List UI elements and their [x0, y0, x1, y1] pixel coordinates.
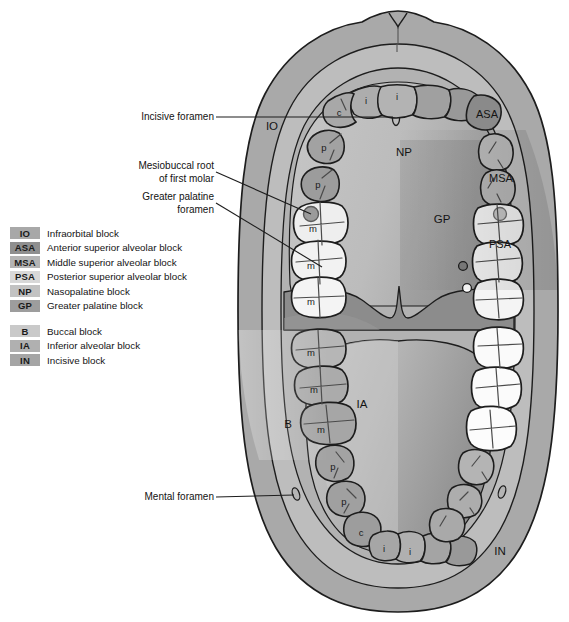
- legend-label-gp: Greater palatine block: [47, 300, 143, 311]
- callout-greater-palatine-line2: foramen: [84, 204, 214, 217]
- legend-group-mandibular: BBuccal blockIAInferior alveolar blockIN…: [10, 324, 200, 368]
- tooth-man-canine-right: [430, 508, 465, 541]
- legend-swatch-psa: PSA: [10, 271, 40, 283]
- region-label-msa: MSA: [489, 172, 514, 184]
- legend-swatch-in: IN: [10, 354, 40, 366]
- callout-mental-foramen: Mental foramen: [104, 491, 214, 504]
- tooth-max-incisor-2: [413, 85, 451, 118]
- callout-mental-foramen-line1: Mental foramen: [104, 491, 214, 504]
- legend-row-gp: GPGreater palatine block: [10, 299, 200, 314]
- tooth-label-man-molar2: m: [310, 384, 318, 395]
- legend-group-divider: [10, 313, 200, 324]
- legend-swatch-gp: GP: [10, 300, 40, 312]
- legend-row-in: INIncisive block: [10, 353, 200, 368]
- tooth-label-max-prem2: p: [315, 179, 320, 190]
- region-label-io: IO: [266, 120, 278, 132]
- tooth-label-man-central: i: [409, 546, 411, 557]
- legend: IOInfraorbital blockASAAnterior superior…: [10, 226, 200, 368]
- tooth-label-max-molar3: m: [307, 296, 315, 307]
- callout-mesiobuccal-root-line2: of first molar: [84, 173, 214, 186]
- legend-label-in: Incisive block: [47, 355, 105, 366]
- tooth-man-premolar2-right: [459, 449, 494, 484]
- callout-incisive-foramen: Incisive foramen: [104, 111, 214, 124]
- tooth-label-man-lateral: i: [383, 543, 385, 554]
- region-label-psa: PSA: [489, 238, 512, 250]
- legend-label-asa: Anterior superior alveolar block: [47, 242, 182, 253]
- region-label-b: B: [284, 418, 292, 430]
- legend-row-asa: ASAAnterior superior alveolar block: [10, 241, 200, 256]
- region-label-np: NP: [396, 146, 412, 158]
- tooth-label-man-molar1: m: [317, 424, 325, 435]
- tooth-label-max-canine: c: [337, 107, 342, 118]
- legend-swatch-msa: MSA: [10, 256, 40, 268]
- legend-swatch-asa: ASA: [10, 242, 40, 254]
- region-label-in: IN: [494, 545, 506, 557]
- legend-row-ia: IAInferior alveolar block: [10, 339, 200, 354]
- legend-swatch-io: IO: [10, 227, 40, 239]
- tooth-label-max-lateral: i: [365, 95, 367, 106]
- legend-swatch-ia: IA: [10, 340, 40, 352]
- callout-mesiobuccal-root-line1: Mesiobuccal root: [84, 160, 214, 173]
- legend-label-b: Buccal block: [47, 326, 102, 337]
- callout-greater-palatine-line1: Greater palatine: [84, 191, 214, 204]
- tooth-label-man-canine: c: [359, 527, 364, 538]
- tooth-label-man-prem2: p: [330, 461, 335, 472]
- tooth-label-man-prem1: p: [341, 496, 346, 507]
- dental-anatomy-figure: IO NP GP ASA MSA PSA B IA IN i i c p p m…: [0, 0, 569, 622]
- region-label-gp: GP: [434, 213, 451, 225]
- callout-incisive-foramen-line1: Incisive foramen: [104, 111, 214, 124]
- callout-mesiobuccal-root: Mesiobuccal root of first molar: [84, 160, 214, 185]
- tooth-label-max-molar1: m: [309, 223, 317, 234]
- legend-label-psa: Posterior superior alveolar block: [47, 271, 187, 282]
- legend-swatch-np: NP: [10, 285, 40, 297]
- tooth-label-max-central: i: [396, 91, 398, 102]
- tooth-label-man-molar3: m: [307, 347, 315, 358]
- legend-label-io: Infraorbital block: [47, 228, 119, 239]
- legend-row-psa: PSAPosterior superior alveolar block: [10, 270, 200, 285]
- region-label-ia: IA: [357, 398, 368, 410]
- legend-row-np: NPNasopalatine block: [10, 284, 200, 299]
- legend-row-msa: MSAMiddle superior alveolar block: [10, 255, 200, 270]
- legend-row-b: BBuccal block: [10, 324, 200, 339]
- legend-swatch-b: B: [10, 325, 40, 337]
- legend-label-ia: Inferior alveolar block: [47, 340, 140, 351]
- legend-row-io: IOInfraorbital block: [10, 226, 200, 241]
- legend-group-maxillary: IOInfraorbital blockASAAnterior superior…: [10, 226, 200, 313]
- callout-greater-palatine-foramen: Greater palatine foramen: [84, 191, 214, 216]
- legend-label-np: Nasopalatine block: [47, 286, 130, 297]
- tooth-label-max-prem1: p: [321, 142, 326, 153]
- legend-label-msa: Middle superior alveolar block: [47, 257, 177, 268]
- region-label-asa: ASA: [476, 108, 499, 120]
